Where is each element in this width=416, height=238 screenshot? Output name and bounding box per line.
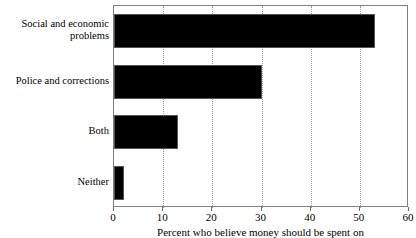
category-label: Both (0, 125, 109, 137)
category-label-line: problems (0, 30, 109, 42)
plot-area (113, 5, 408, 207)
x-tick-label: 60 (388, 211, 416, 224)
category-label-line: Both (0, 125, 109, 137)
bar (114, 115, 178, 149)
category-label: Police and corrections (0, 75, 109, 87)
x-tick-label: 0 (93, 211, 133, 224)
x-tick-label: 50 (339, 211, 379, 224)
category-label: Neither (0, 176, 109, 188)
x-tick-label: 30 (241, 211, 281, 224)
category-label-line: Neither (0, 176, 109, 188)
bar (114, 65, 262, 99)
x-tick-label: 40 (290, 211, 330, 224)
category-axis-labels: Social and economicproblemsPolice and co… (0, 5, 109, 207)
category-label-line: Police and corrections (0, 75, 109, 87)
bar-chart: Social and economicproblemsPolice and co… (0, 0, 416, 238)
x-axis-title: Percent who believe money should be spen… (113, 226, 408, 238)
bar (114, 166, 124, 200)
category-label: Social and economicproblems (0, 18, 109, 42)
category-label-line: Social and economic (0, 18, 109, 30)
x-tick-label: 10 (142, 211, 182, 224)
bar (114, 14, 375, 48)
x-tick-label: 20 (191, 211, 231, 224)
